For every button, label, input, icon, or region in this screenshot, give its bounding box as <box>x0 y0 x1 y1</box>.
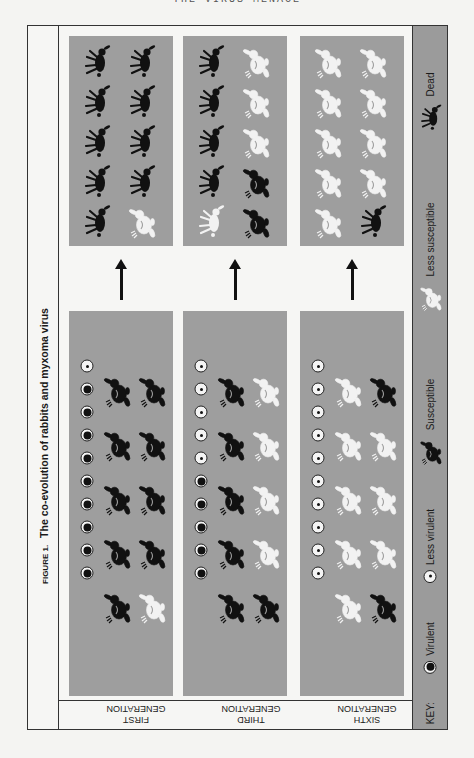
arrow-up-icon <box>351 268 354 300</box>
less-virulent-virus-icon <box>312 429 325 442</box>
less-virulent-virus-icon <box>312 360 325 373</box>
dead-rabbit-icon <box>127 125 161 159</box>
dead-rabbit-icon <box>196 85 230 119</box>
key-less-susceptible-label: Less susceptible <box>425 203 436 277</box>
virulent-virus-icon <box>81 544 94 557</box>
figure-title: FIGURE 1. The co-evolution of rabbits an… <box>38 308 50 584</box>
susceptible-rabbit-icon <box>216 536 250 570</box>
susceptible-rabbit-icon <box>137 482 171 516</box>
less-susceptible-rabbit-icon <box>251 374 285 408</box>
susceptible-rabbit-icon <box>137 536 171 570</box>
generation-label-line1: THIRD <box>196 714 306 725</box>
key-less-virulent: Less virulent <box>424 509 437 583</box>
susceptible-rabbit-icon <box>102 482 136 516</box>
less-virulent-icon <box>424 570 437 583</box>
dead-less-susceptible-rabbit-icon <box>196 205 230 239</box>
less-susceptible-rabbit-icon <box>333 482 367 516</box>
before-panel-first <box>69 311 173 696</box>
less-susceptible-rabbit-icon <box>313 85 347 119</box>
virulent-virus-icon <box>195 521 208 534</box>
title-strip: FIGURE 1. The co-evolution of rabbits an… <box>28 26 59 729</box>
virulent-virus-icon <box>81 429 94 442</box>
susceptible-rabbit-icon <box>251 590 285 624</box>
arrow-up-icon <box>120 268 123 300</box>
dead-rabbit-icon <box>196 165 230 199</box>
susceptible-rabbit-icon <box>241 205 275 239</box>
generation-label-band: FIRST GENERATION THIRD GENERATION SIXTH … <box>59 700 412 729</box>
figure-frame: FIGURE 1. The co-evolution of rabbits an… <box>27 25 448 730</box>
less-susceptible-rabbit-icon <box>251 536 285 570</box>
virulent-virus-icon <box>195 498 208 511</box>
generation-label-line1: FIRST <box>81 714 191 725</box>
susceptible-rabbit-icon <box>102 536 136 570</box>
dead-rabbit-icon <box>82 45 116 79</box>
virulent-virus-icon <box>81 475 94 488</box>
dead-rabbit-icon <box>358 205 392 239</box>
susceptible-rabbit-icon <box>102 374 136 408</box>
arrow-up-icon <box>234 268 237 300</box>
virulent-virus-icon <box>81 383 94 396</box>
susceptible-rabbit-icon <box>102 590 136 624</box>
key-less-susceptible: Less susceptible <box>416 203 444 310</box>
less-susceptible-rabbit-icon <box>313 205 347 239</box>
less-virulent-virus-icon <box>312 452 325 465</box>
key-dead: Dead <box>416 73 444 130</box>
less-susceptible-rabbit-icon <box>333 536 367 570</box>
less-virulent-virus-icon <box>312 406 325 419</box>
dead-rabbit-icon <box>196 125 230 159</box>
generation-label-sixth: SIXTH GENERATION <box>312 703 422 725</box>
after-panel-sixth <box>300 36 404 246</box>
susceptible-rabbit-icon <box>137 374 171 408</box>
page-header: THE VIRUS MENACE <box>0 0 474 6</box>
less-virulent-virus-icon <box>312 521 325 534</box>
less-susceptible-rabbit-icon <box>368 428 402 462</box>
less-virulent-virus-icon <box>81 360 94 373</box>
less-susceptible-rabbit-icon <box>241 125 275 159</box>
less-susceptible-rabbit-icon <box>368 482 402 516</box>
key-dead-label: Dead <box>425 73 436 97</box>
dead-rabbit-icon <box>127 85 161 119</box>
susceptible-rabbit-icon <box>216 482 250 516</box>
virulent-virus-icon <box>81 567 94 580</box>
virulent-virus-icon <box>81 498 94 511</box>
key-virulent: Virulent <box>424 622 437 674</box>
less-virulent-virus-icon <box>312 567 325 580</box>
figure-number: FIGURE 1. <box>41 545 50 584</box>
dead-rabbit-icon <box>82 205 116 239</box>
virulent-virus-icon <box>195 567 208 580</box>
susceptible-rabbit-icon <box>419 438 441 460</box>
dead-rabbit-icon <box>419 104 441 126</box>
less-virulent-virus-icon <box>195 406 208 419</box>
virulent-virus-icon <box>81 406 94 419</box>
less-susceptible-rabbit-icon <box>358 85 392 119</box>
less-virulent-virus-icon <box>195 383 208 396</box>
key-strip: KEY: Virulent Less virulent Susceptible … <box>412 26 447 729</box>
generation-label-line2: GENERATION <box>81 703 191 714</box>
less-susceptible-rabbit-icon <box>241 45 275 79</box>
less-susceptible-rabbit-icon <box>127 205 161 239</box>
less-susceptible-rabbit-icon <box>313 165 347 199</box>
generation-label-line1: SIXTH <box>312 714 422 725</box>
less-susceptible-rabbit-icon <box>251 428 285 462</box>
dead-rabbit-icon <box>82 165 116 199</box>
less-virulent-virus-icon <box>312 544 325 557</box>
less-susceptible-rabbit-icon <box>368 536 402 570</box>
susceptible-rabbit-icon <box>368 590 402 624</box>
less-virulent-virus-icon <box>312 383 325 396</box>
less-virulent-virus-icon <box>195 429 208 442</box>
before-panel-third <box>183 311 287 696</box>
less-susceptible-rabbit-icon <box>313 45 347 79</box>
before-panel-sixth <box>300 311 404 696</box>
less-virulent-virus-icon <box>312 475 325 488</box>
dead-rabbit-icon <box>127 45 161 79</box>
less-susceptible-rabbit-icon <box>313 125 347 159</box>
less-susceptible-rabbit-icon <box>241 85 275 119</box>
susceptible-rabbit-icon <box>216 428 250 462</box>
key-less-virulent-label: Less virulent <box>425 509 436 565</box>
susceptible-rabbit-icon <box>102 428 136 462</box>
less-susceptible-rabbit-icon <box>333 374 367 408</box>
dead-rabbit-icon <box>82 85 116 119</box>
less-susceptible-rabbit-icon <box>358 165 392 199</box>
after-panel-third <box>183 36 287 246</box>
generation-label-line2: GENERATION <box>312 703 422 714</box>
